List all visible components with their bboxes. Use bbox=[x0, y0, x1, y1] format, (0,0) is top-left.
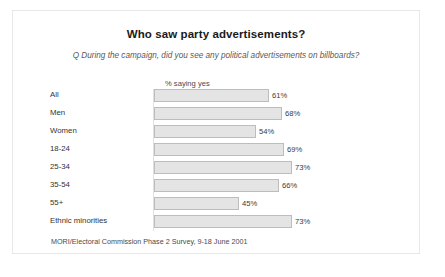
bar-track bbox=[154, 125, 305, 138]
bar-value-label: 61% bbox=[272, 91, 287, 100]
bar-category-label: Women bbox=[50, 126, 77, 135]
bar-row: Ethnic minorities 73% bbox=[13, 215, 419, 228]
bar-row: Men 68% bbox=[13, 107, 419, 120]
bar-value-label: 45% bbox=[242, 199, 257, 208]
bar-value-label: 54% bbox=[259, 127, 274, 136]
chart-question: Q During the campaign, did you see any p… bbox=[13, 51, 419, 60]
bar-track bbox=[154, 197, 305, 210]
bar-row: 55+ 45% bbox=[13, 197, 419, 210]
plot-area: All 61% Men 68% Women 54% 18-24 6 bbox=[13, 89, 419, 231]
bar-fill bbox=[154, 125, 256, 138]
bar-category-label: All bbox=[50, 90, 59, 99]
bar-category-label: 55+ bbox=[50, 198, 63, 207]
bar-track bbox=[154, 161, 305, 174]
bar-fill bbox=[154, 179, 279, 192]
chart-title: Who saw party advertisements? bbox=[13, 28, 419, 40]
bar-category-label: 25-34 bbox=[50, 162, 70, 171]
bar-category-label: 18-24 bbox=[50, 144, 70, 153]
bar-row: All 61% bbox=[13, 89, 419, 102]
bar-value-label: 68% bbox=[285, 109, 300, 118]
bar-row: Women 54% bbox=[13, 125, 419, 138]
bar-value-label: 73% bbox=[295, 217, 310, 226]
bar-value-label: 69% bbox=[287, 145, 302, 154]
bar-row: 18-24 69% bbox=[13, 143, 419, 156]
bar-track bbox=[154, 143, 305, 156]
bar-value-label: 73% bbox=[295, 163, 310, 172]
bar-fill bbox=[154, 143, 284, 156]
bar-value-label: 66% bbox=[282, 181, 297, 190]
bar-track bbox=[154, 215, 305, 228]
bar-fill bbox=[154, 89, 269, 102]
bar-category-label: Ethnic minorities bbox=[50, 216, 107, 225]
bar-fill bbox=[154, 161, 292, 174]
bar-track bbox=[154, 107, 305, 120]
bar-fill bbox=[154, 107, 282, 120]
bar-row: 35-54 66% bbox=[13, 179, 419, 192]
bar-row: 25-34 73% bbox=[13, 161, 419, 174]
bar-fill bbox=[154, 215, 292, 228]
bar-category-label: Men bbox=[50, 108, 65, 117]
chart-frame: Who saw party advertisements? Q During t… bbox=[12, 10, 420, 254]
bar-category-label: 35-54 bbox=[50, 180, 70, 189]
source-note: MORI/Electoral Commission Phase 2 Survey… bbox=[51, 237, 247, 246]
bar-fill bbox=[154, 197, 239, 210]
axis-caption: % saying yes bbox=[165, 79, 210, 88]
